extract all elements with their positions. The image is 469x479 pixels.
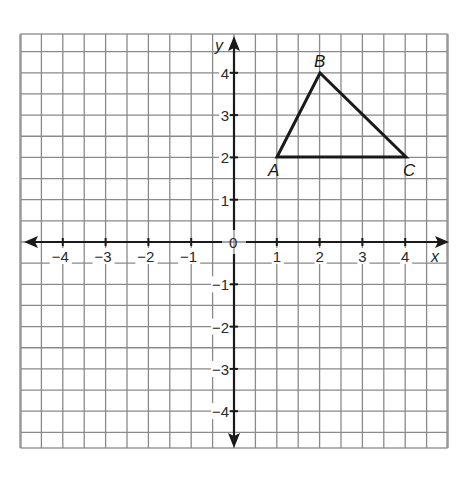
coordinate-plane: −4−3−2−112344321−1−2−3−4 0 x y A B C [0,0,469,479]
y-tick-label: −2 [212,319,229,336]
y-tick-label: −1 [212,276,229,293]
x-tick-label: 3 [358,248,366,265]
y-tick-label: 1 [221,192,229,209]
vertex-label-c: C [403,161,416,180]
vertex-label-b: B [314,52,325,71]
x-tick-label: −1 [180,248,197,265]
y-tick-label: 3 [221,107,229,124]
x-tick-label: −2 [137,248,154,265]
y-tick-label: −4 [212,403,229,420]
x-tick-label: 4 [401,248,409,265]
y-tick-label: −3 [212,361,229,378]
y-tick-label: 4 [221,65,229,82]
y-axis-name: y [214,37,224,54]
x-tick-label: 1 [273,248,281,265]
y-tick-label: 2 [221,149,229,166]
x-tick-label: −3 [94,248,111,265]
vertex-label-a: A [267,161,279,180]
x-axis-name: x [430,248,440,265]
x-tick-label: −4 [52,248,69,265]
x-tick-label: 2 [315,248,323,265]
origin-label: 0 [229,234,237,251]
